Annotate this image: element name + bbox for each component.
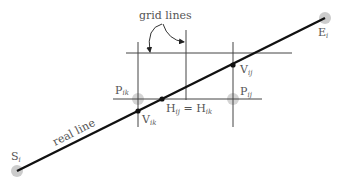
grid-traversal-diagram: grid lines real line Si Ei Pik Pij Vij V… (0, 0, 344, 186)
v-ij-point (230, 62, 235, 67)
real-line (17, 18, 325, 171)
h-equality-label: Hij = Hik (166, 102, 212, 116)
grid-lines-label: grid lines (139, 9, 192, 22)
end-label: Ei (318, 26, 328, 40)
h-point (159, 96, 164, 101)
start-label: Si (11, 150, 21, 164)
v-ik-label: Vik (141, 113, 156, 127)
v-ij-label: Vij (239, 63, 253, 77)
p-ik-label: Pik (115, 84, 129, 97)
p-ij-label: Pij (240, 85, 253, 99)
v-ik-point (135, 108, 140, 113)
arrow-to-left-gridline (149, 24, 162, 52)
arrow-to-middle-gridline (163, 24, 184, 42)
